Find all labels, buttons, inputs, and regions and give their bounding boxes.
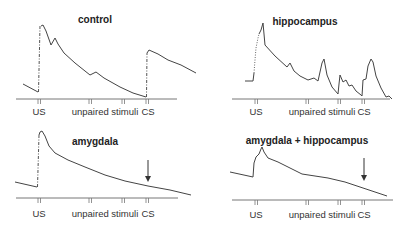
cs-label: CS: [141, 106, 154, 117]
unpaired-stimuli-label: unpaired stimuli: [289, 209, 356, 220]
unpaired-stimuli-label: unpaired stimuli: [72, 208, 139, 219]
cs-arrow-icon: [361, 158, 367, 181]
cs-arrow-icon: [145, 160, 151, 182]
us-label: US: [249, 209, 262, 220]
response-curve: [245, 23, 392, 99]
panel-title: hippocampus: [272, 16, 337, 27]
cs-onset-dashed: [147, 53, 148, 97]
unpaired-stimuli-label: unpaired stimuli: [289, 106, 356, 117]
panel-amygdala-hippocampus: amygdala + hippocampus US unpaired stimu…: [230, 135, 393, 220]
us-label: US: [32, 106, 45, 117]
panel-title: amygdala + hippocampus: [246, 135, 369, 146]
us-onset-dotted: [254, 34, 259, 73]
figure-canvas: control US unpaired stimuli CS hippocamp…: [0, 0, 409, 232]
us-onset-dashed: [38, 135, 40, 187]
response-curve: [23, 25, 196, 97]
us-label: US: [32, 208, 45, 219]
us-onset-dashed: [39, 26, 41, 92]
tick-marks: [38, 99, 149, 104]
panel-title: control: [78, 14, 112, 25]
cs-label: CS: [357, 106, 370, 117]
response-curve: [230, 147, 387, 196]
panel-title: amygdala: [72, 136, 119, 147]
panel-hippocampus: hippocampus US unpaired stimuli CS: [232, 16, 392, 117]
cs-label: CS: [357, 209, 370, 220]
tick-marks: [255, 99, 365, 104]
cs-label: CS: [141, 208, 154, 219]
tick-marks: [255, 200, 365, 205]
panel-amygdala: amygdala US unpaired stimuli CS: [15, 131, 191, 219]
us-label: US: [249, 106, 262, 117]
unpaired-stimuli-label: unpaired stimuli: [72, 106, 139, 117]
tick-marks: [38, 198, 149, 203]
panel-control: control US unpaired stimuli CS: [16, 14, 196, 117]
